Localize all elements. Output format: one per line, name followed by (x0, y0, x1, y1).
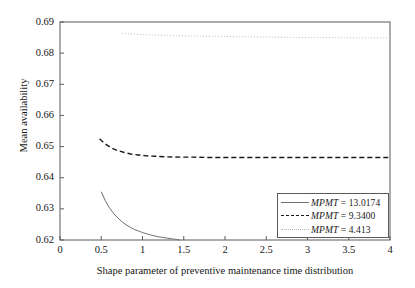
chart-legend: MPMT = 13.0174 MPMT = 9.3400 MPMT = 4.41… (277, 193, 389, 238)
y-tick-label: 0.63 (18, 203, 54, 214)
legend-item: MPMT = 13.0174 (278, 196, 388, 210)
y-tick-label: 0.62 (18, 235, 54, 246)
x-tick-label: 3 (288, 245, 328, 256)
x-tick-label: 1.5 (164, 245, 204, 256)
x-tick-label: 0.5 (81, 245, 121, 256)
x-tick-label: 2 (205, 245, 245, 256)
legend-label-value: = 13.0174 (338, 198, 380, 208)
x-tick-label: 0 (40, 245, 80, 256)
legend-label-prefix: MPMT (311, 211, 338, 221)
y-axis-title: Mean availability (18, 46, 29, 186)
legend-label: MPMT = 9.3400 (309, 211, 375, 221)
x-axis-title: Shape parameter of preventive maintenanc… (60, 265, 390, 276)
legend-label-value: = 9.3400 (338, 211, 375, 221)
legend-line-sample-solid-icon (281, 198, 309, 208)
y-tick-label: 0.69 (18, 17, 54, 28)
legend-label-value: = 4.413 (338, 225, 370, 235)
x-tick-label: 1 (123, 245, 163, 256)
x-tick-label: 3.5 (329, 245, 369, 256)
chart-figure: 0.620.630.640.650.660.670.680.69 00.511.… (0, 0, 415, 288)
x-tick-label: 2.5 (246, 245, 286, 256)
legend-label-prefix: MPMT (311, 198, 338, 208)
legend-label: MPMT = 13.0174 (309, 198, 380, 208)
legend-line-sample-dotted-icon (281, 225, 309, 235)
legend-label: MPMT = 4.413 (309, 225, 371, 235)
legend-item: MPMT = 4.413 (278, 223, 388, 237)
legend-item: MPMT = 9.3400 (278, 210, 388, 224)
legend-label-prefix: MPMT (311, 225, 338, 235)
legend-line-sample-dashed-icon (281, 211, 309, 221)
x-tick-label: 4 (370, 245, 410, 256)
